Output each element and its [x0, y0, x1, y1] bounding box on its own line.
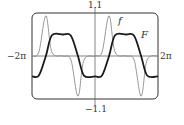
y-min-label: −1.1 [85, 105, 107, 114]
x-min-label: −2π [7, 52, 26, 61]
curve-F-label: F [141, 30, 148, 40]
y-max-label: 1.1 [88, 1, 102, 10]
curve-f-label: f [118, 16, 122, 26]
x-max-label: 2π [160, 52, 172, 61]
